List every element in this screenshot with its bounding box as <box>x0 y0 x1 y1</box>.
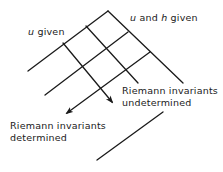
riemann-undetermined-line2: undetermined <box>122 97 218 109</box>
characteristic-down-right-arrow <box>63 43 112 102</box>
lower-line <box>97 112 163 160</box>
characteristic-down-left-1 <box>45 32 128 95</box>
and-text: and <box>136 12 161 23</box>
left-boundary-line <box>28 11 108 71</box>
riemann-undetermined-line1: Riemann invariants <box>122 85 218 97</box>
characteristic-down-right-1 <box>86 26 138 83</box>
u-given-label: u given <box>28 26 65 38</box>
given-text: given <box>34 26 64 37</box>
given-text: given <box>167 12 197 23</box>
riemann-determined-line2: determined <box>10 132 106 144</box>
riemann-undetermined-label: Riemann invariants undetermined <box>122 85 218 109</box>
riemann-determined-line1: Riemann invariants <box>10 120 106 132</box>
riemann-determined-label: Riemann invariants determined <box>10 120 106 144</box>
u-and-h-given-label: u and h given <box>130 12 198 24</box>
